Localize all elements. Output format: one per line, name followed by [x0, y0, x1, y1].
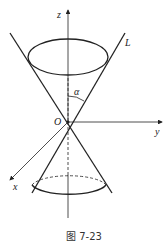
bottom-ellipse-back: [32, 176, 106, 185]
y-axis-label: y: [155, 127, 159, 137]
figure-caption: 图 7-23: [0, 228, 168, 243]
cone-diagram: [0, 0, 168, 246]
bottom-ellipse-front: [32, 185, 106, 194]
origin-label: O: [54, 117, 61, 127]
x-axis-label: x: [13, 182, 17, 192]
x-axis: [10, 122, 68, 180]
z-axis-label: z: [57, 10, 61, 20]
origin-point: [67, 121, 70, 124]
cone-line-right-L: [32, 33, 125, 193]
line-L-label: L: [125, 38, 131, 48]
cone-line-left: [10, 33, 112, 193]
angle-alpha-label: α: [74, 87, 79, 97]
